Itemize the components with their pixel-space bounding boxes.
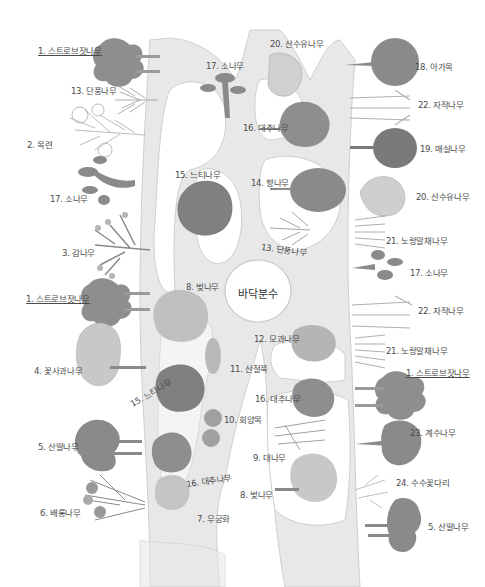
tree-plum-19 [350,128,417,168]
label-pine-17-left: 17. 소나무 [50,194,88,204]
label-quince-12: 12. 모과나무 [254,334,300,344]
label-cherry-8-top: 8. 벚나무 [186,282,219,292]
tree-rose-of-sharon-7 [155,475,190,510]
label-birch-22-bottom: 22. 자작나무 [418,306,464,316]
tree-red-osier-21-top [355,216,385,248]
tree-map: 바닥분수 1. 스트로브잣나무 13. 단풍나무 2. 목련 17. 소나무 3… [0,0,485,587]
tree-dogwood-5-right [365,498,421,552]
label-cherry-8-bottom: 8. 벚나무 [240,490,273,500]
label-dogwood-5: 5. 산딸나무 [38,442,79,452]
tree-cherry-8-top [153,290,208,342]
tree-birch-22-bottom [352,296,412,328]
tree-red-osier-21-bottom [355,335,385,368]
label-juniper-14: 14. 향나무 [251,178,289,188]
label-cornelian-cherry-20: 20. 산수유나무 [270,39,324,49]
label-pine-17-center: 17. 소나무 [206,61,244,71]
tree-crape-myrtle-6 [83,475,145,520]
tree-18 [345,38,419,86]
label-red-osier-21-bottom: 21. 노랑말채나무 [386,346,447,356]
label-plum-19: 19. 매실나무 [420,144,466,154]
label-pine-17-right: 17. 소나무 [410,268,448,278]
fountain-label: 바닥분수 [238,285,278,301]
tree-pine-17-right [352,250,403,280]
tree-dogwood-5 [75,420,142,472]
tree-strobe-pine-1-right [355,371,426,420]
label-zelkova-15-top: 15. 느티나무 [175,170,221,180]
label-strobe-pine-1: 1. 스트로브잣나무 [38,46,102,56]
label-boxwood-10: 10. 회양목 [224,415,262,425]
tree-birch-22-top [350,90,410,125]
label-katsura-23: 23. 계수나무 [410,428,456,438]
label-strobe-pine-1b: 1. 스트로브잣나무 [26,294,90,304]
tree-azalea-11 [205,338,221,374]
label-crape-myrtle-6: 6. 배롱나무 [40,508,81,518]
label-birch-22-top: 22. 자작나무 [418,100,464,110]
label-rose-of-sharon-7: 7. 무궁화 [197,514,230,524]
label-strobe-pine-1-right: 1. 스트로브잣나무 [406,368,470,378]
tree-lilac-24 [355,475,388,508]
label-tree-18: 18. 아가목 [415,62,453,72]
label-crabapple-4: 4. 꽃사과나무 [34,366,82,376]
label-cornelian-cherry-20-right: 20. 산수유나무 [416,192,470,202]
tree-crabapple-4 [76,323,146,386]
label-maple-13: 13. 단풍나무 [71,86,117,96]
tree-magnolia-2 [70,104,145,157]
label-azalea-11: 11. 산철쭉 [230,364,268,374]
label-persimmon-3: 3. 감나무 [62,248,95,258]
tree-cornelian-cherry-20-right [360,176,405,216]
tree-jujube-16-left [152,433,192,473]
label-jujube-16-right: 16. 대추나무 [255,394,301,404]
label-dogwood-5-right: 5. 산딸나무 [428,522,469,532]
label-bamboo-9: 9. 대나무 [253,453,286,463]
label-magnolia-2: 2. 목련 [27,140,52,150]
label-jujube-16-top: 16. 대추나무 [243,123,289,133]
label-lilac-24: 24. 수수꽃다리 [396,478,450,488]
label-red-osier-21-top: 21. 노랑말채나무 [386,236,447,246]
